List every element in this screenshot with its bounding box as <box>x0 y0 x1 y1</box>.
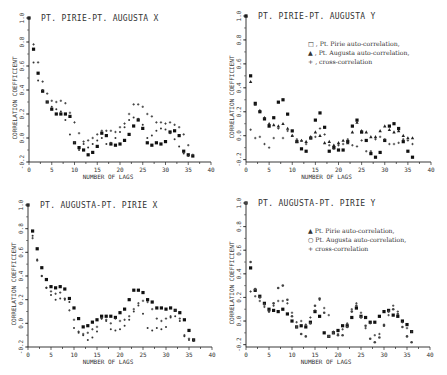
data-point <box>55 112 58 115</box>
data-point <box>249 80 252 83</box>
data-point <box>96 145 99 148</box>
data-point <box>119 320 121 322</box>
data-point <box>86 324 89 327</box>
y-axis-label: CORRELATION COEFFICIENT <box>228 55 235 138</box>
data-point <box>68 309 70 311</box>
data-point <box>314 304 317 307</box>
legend-item: □ , Pt. Pirie auto-correlation, <box>308 40 400 47</box>
data-point <box>160 328 162 330</box>
data-point <box>332 143 335 146</box>
data-point <box>155 141 158 144</box>
x-tick-label: 5 <box>49 351 53 358</box>
data-point <box>365 150 367 152</box>
y-axis-label: CORRELATION COEFFICIENT <box>10 242 17 325</box>
data-point <box>282 137 284 139</box>
y-tick-label: -0.2 <box>235 152 242 167</box>
data-point <box>178 126 180 128</box>
data-point <box>128 133 131 136</box>
data-point <box>110 328 112 330</box>
data-point <box>364 324 367 327</box>
data-point <box>32 43 34 45</box>
data-point <box>411 136 414 139</box>
data-point <box>68 115 71 118</box>
data-point <box>128 119 130 121</box>
data-point <box>165 326 167 328</box>
data-point <box>146 113 148 115</box>
data-point <box>155 121 157 123</box>
data-point <box>146 137 148 139</box>
x-tick-label: 30 <box>381 166 389 173</box>
data-point <box>328 140 331 143</box>
x-tick-label: 40 <box>426 351 434 358</box>
data-point <box>277 287 280 290</box>
data-point <box>141 127 144 130</box>
data-point <box>119 328 121 330</box>
data-point <box>406 327 408 329</box>
data-point <box>156 317 158 319</box>
data-point <box>411 156 414 159</box>
data-point <box>110 322 112 324</box>
data-point <box>92 143 94 145</box>
data-point <box>254 295 256 297</box>
data-point <box>300 320 302 322</box>
x-tick-label: 15 <box>93 351 101 358</box>
data-point <box>365 130 368 133</box>
data-point <box>405 323 408 326</box>
data-point <box>351 310 354 313</box>
chart-title: PT. PIRIE-PT. AUGUSTA X <box>41 14 159 23</box>
data-point <box>286 113 289 116</box>
y-tick-label: 0.0 <box>235 130 242 141</box>
data-point <box>142 124 144 126</box>
data-point <box>341 324 344 327</box>
data-point <box>300 324 303 327</box>
data-point <box>173 129 176 132</box>
data-point <box>60 111 62 113</box>
data-point <box>137 302 139 304</box>
data-point <box>351 308 353 310</box>
data-point <box>137 289 140 292</box>
data-point <box>64 102 66 104</box>
data-point <box>73 319 75 321</box>
data-point <box>133 308 135 310</box>
x-tick-label: 30 <box>162 351 170 358</box>
data-point <box>360 316 363 319</box>
x-tick-label: 0 <box>244 166 248 173</box>
data-point <box>31 229 34 232</box>
data-point <box>291 129 294 132</box>
data-point <box>118 142 121 145</box>
data-point <box>91 328 93 330</box>
data-point <box>183 318 186 321</box>
data-point <box>142 313 144 315</box>
data-point <box>60 100 62 102</box>
data-point <box>146 141 149 144</box>
data-point <box>36 247 39 250</box>
data-point <box>263 306 265 308</box>
legend-item: ▲ Pt. Pirie auto-correlation, <box>308 227 395 234</box>
data-point <box>91 321 94 324</box>
x-tick-label: 5 <box>267 351 271 358</box>
data-point <box>378 129 381 132</box>
data-point <box>123 139 126 142</box>
data-point <box>132 289 135 292</box>
data-point <box>128 113 130 115</box>
data-point <box>388 124 391 127</box>
x-axis-label: NUMBER OF LAGS <box>83 358 134 365</box>
data-point <box>151 135 153 137</box>
x-tick-label: 20 <box>116 166 124 173</box>
y-tick-label: 0.8 <box>17 223 24 234</box>
scatter-plot: 0510152025303540NUMBER OF LAGS-0.20.00.2… <box>0 187 223 375</box>
y-tick-label: 0.4 <box>17 270 24 281</box>
data-point <box>59 112 62 115</box>
data-point <box>277 300 279 302</box>
y-tick-label: 0.0 <box>235 315 242 326</box>
y-tick-label: 0.4 <box>235 82 242 93</box>
data-point <box>411 143 413 145</box>
y-tick-label: 1.0 <box>235 10 242 21</box>
data-point <box>133 311 135 313</box>
data-point <box>295 326 298 329</box>
y-tick-label: 0.8 <box>235 34 242 45</box>
chart-panel-2: 0510152025303540NUMBER OF LAGS-0.20.00.2… <box>224 0 447 187</box>
data-point <box>73 121 75 123</box>
data-point <box>309 322 312 325</box>
x-tick-label: 15 <box>94 166 102 173</box>
